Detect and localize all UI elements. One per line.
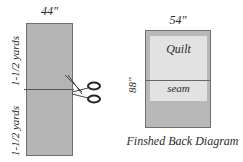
back-width-label: 54" xyxy=(145,13,211,28)
seam-label: seam xyxy=(150,82,207,94)
seam-line xyxy=(145,80,211,81)
fabric-width-label: 44" xyxy=(26,4,73,19)
lower-length-label: 1-1/2 yards xyxy=(9,106,21,156)
upper-length-label: 1-1/2 yards xyxy=(9,36,21,86)
diagram-caption: Finshed Back Diagram xyxy=(122,134,243,149)
scissors-icon xyxy=(62,72,104,106)
back-height-label: 88" xyxy=(126,77,138,93)
quilt-label: Quilt xyxy=(150,42,207,57)
